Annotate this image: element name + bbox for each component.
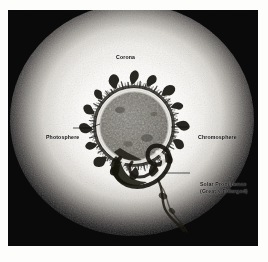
label-solar-prominence: Solar Prominence (Greatly Enlarged) [200, 181, 248, 194]
label-corona: Corona [116, 54, 135, 61]
label-photosphere: Photosphere [46, 134, 79, 141]
sun-illustration [8, 10, 258, 246]
photographic-plate: Corona Photosphere Chromosphere Solar Pr… [8, 10, 258, 246]
sun-structure-figure: Corona Photosphere Chromosphere Solar Pr… [0, 0, 268, 262]
label-solar-prominence-line1: Solar Prominence [200, 181, 247, 187]
label-solar-prominence-line2: (Greatly Enlarged) [200, 188, 248, 194]
label-chromosphere: Chromosphere [198, 134, 237, 141]
